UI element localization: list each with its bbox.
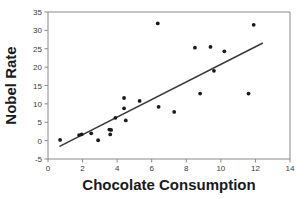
x-axis-title: Chocolate Consumption xyxy=(82,176,255,193)
x-tick-label: 10 xyxy=(216,164,225,173)
y-tick-label: 30 xyxy=(33,26,42,35)
x-tick-label: 14 xyxy=(286,164,295,173)
y-tick-label: 10 xyxy=(33,100,42,109)
data-points xyxy=(58,21,255,142)
data-point xyxy=(247,92,251,96)
x-tick-label: 0 xyxy=(46,164,51,173)
data-point xyxy=(122,96,126,100)
chart-container: 02468101214 -505101520253035 Chocolate C… xyxy=(0,0,307,199)
regression-line xyxy=(60,43,262,146)
y-tick-label: 5 xyxy=(38,118,43,127)
data-point xyxy=(80,132,84,136)
x-axis-tick-labels: 02468101214 xyxy=(46,164,295,173)
data-point xyxy=(193,46,197,50)
y-tick-label: 35 xyxy=(33,8,42,17)
data-point xyxy=(252,23,256,27)
data-point xyxy=(212,69,216,73)
data-point xyxy=(156,21,160,25)
data-point xyxy=(89,131,93,135)
data-point xyxy=(157,105,161,109)
data-point xyxy=(96,138,100,142)
plot-frame xyxy=(48,12,290,159)
y-tick-label: 20 xyxy=(33,63,42,72)
data-point xyxy=(122,106,126,110)
x-tick-label: 8 xyxy=(184,164,189,173)
y-tick-label: 0 xyxy=(38,137,43,146)
data-point xyxy=(209,45,213,49)
y-tick-label: 25 xyxy=(33,45,42,54)
data-point xyxy=(172,110,176,114)
x-tick-label: 2 xyxy=(80,164,85,173)
data-point xyxy=(109,128,113,132)
x-tick-label: 12 xyxy=(251,164,260,173)
y-axis-title: Nobel Rate xyxy=(2,46,19,124)
x-tick-label: 4 xyxy=(115,164,120,173)
data-point xyxy=(198,92,202,96)
y-tick-label: -5 xyxy=(35,155,43,164)
y-axis-ticks xyxy=(45,12,49,159)
data-point xyxy=(138,99,142,103)
data-point xyxy=(58,138,62,142)
y-tick-label: 15 xyxy=(33,82,42,91)
scatter-plot: 02468101214 -505101520253035 Chocolate C… xyxy=(0,0,307,199)
y-axis-tick-labels: -505101520253035 xyxy=(33,8,42,164)
data-point xyxy=(114,116,118,120)
data-point xyxy=(222,49,226,53)
trend-line xyxy=(60,43,262,146)
x-axis-ticks xyxy=(48,159,290,163)
x-tick-label: 6 xyxy=(149,164,154,173)
data-point xyxy=(108,132,112,136)
data-point xyxy=(124,119,128,123)
